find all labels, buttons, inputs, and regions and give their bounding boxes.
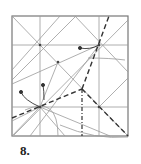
reference-point bbox=[39, 106, 42, 109]
step-number: 8. bbox=[20, 143, 30, 159]
arrow-head-icon bbox=[78, 46, 81, 49]
origami-diagram bbox=[0, 0, 141, 164]
reference-point bbox=[98, 44, 101, 47]
arrow-head-icon bbox=[41, 83, 44, 86]
reference-point bbox=[39, 44, 42, 47]
arrow-head-icon bbox=[19, 90, 22, 93]
reference-point bbox=[57, 61, 60, 64]
reference-point bbox=[98, 106, 101, 109]
